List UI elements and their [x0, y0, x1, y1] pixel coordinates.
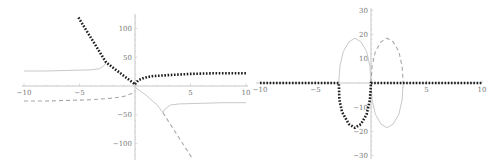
- y-tick-label: 30: [359, 7, 368, 15]
- y-tick-label: 20: [359, 31, 368, 39]
- series-solid-line: [371, 83, 403, 128]
- y-tick-label: −20: [353, 128, 368, 136]
- x-tick-label: 5: [188, 89, 192, 97]
- right-plot: −10−5510302010−10−20−30: [253, 7, 487, 160]
- x-tick-label: −10: [17, 89, 32, 97]
- series-dotted-line: [135, 73, 246, 84]
- y-tick-label: −50: [117, 111, 132, 119]
- x-tick-label: 5: [424, 86, 428, 94]
- y-tick-label: 100: [119, 25, 132, 33]
- x-tick-label: −5: [310, 86, 320, 94]
- y-tick-label: 50: [123, 54, 132, 62]
- plot-canvas: −10−551010050−50−100 −10−5510302010−10−2…: [0, 0, 497, 168]
- y-tick-label: −100: [113, 140, 132, 148]
- y-tick-label: −30: [353, 152, 368, 160]
- x-tick-label: 10: [242, 89, 251, 97]
- x-tick-label: −5: [74, 89, 84, 97]
- series-solid-line: [24, 62, 106, 71]
- x-tick-label: 10: [478, 86, 487, 94]
- x-tick-label: −10: [253, 86, 268, 94]
- series-dashed-line: [163, 113, 192, 158]
- y-tick-label: −10: [353, 104, 368, 112]
- y-tick-label: 10: [359, 55, 368, 63]
- figure: −10−551010050−50−100 −10−5510302010−10−2…: [0, 0, 497, 168]
- series-dashed-line: [371, 38, 403, 83]
- left-plot: −10−551010050−50−100: [17, 14, 251, 160]
